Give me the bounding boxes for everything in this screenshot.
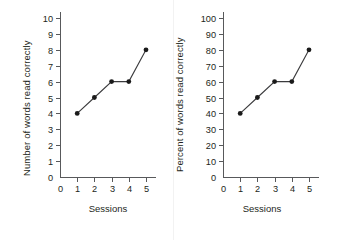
y-tick-label: 2 [48,141,53,151]
x-tick-label: 5 [144,184,149,194]
x-tick-label: 0 [221,184,226,194]
right-chart-x-axis-label: Sessions [212,204,312,214]
data-point-marker [109,79,114,84]
left-chart-y-axis-label: Number of words read correctly [22,16,32,176]
data-point-marker [255,95,260,100]
y-tick-label: 10 [206,157,216,167]
left-chart-x-axis-label: Sessions [58,204,158,214]
panel-seam [173,0,174,240]
x-tick-label: 4 [127,184,132,194]
right-chart-panel: 0102030405060708090100012345 Percent of … [174,0,349,240]
x-tick-label: 4 [290,184,295,194]
data-point-marker [272,79,277,84]
data-point-marker [238,111,243,116]
data-point-marker [92,95,97,100]
y-tick-label: 4 [48,109,53,119]
y-tick-label: 0 [211,173,216,183]
y-tick-label: 3 [48,125,53,135]
right-chart-y-axis-label: Percent of words read correctly [175,22,185,172]
y-tick-label: 20 [206,141,216,151]
data-point-marker [75,111,80,116]
data-point-marker [289,79,294,84]
y-tick-label: 90 [206,30,216,40]
x-tick-label: 3 [273,184,278,194]
y-tick-label: 30 [206,125,216,135]
y-tick-label: 9 [48,30,53,40]
y-tick-label: 7 [48,62,53,72]
y-tick-label: 40 [206,109,216,119]
y-tick-label: 60 [206,78,216,88]
y-tick-label: 6 [48,78,53,88]
y-tick-label: 8 [48,46,53,56]
y-tick-label: 50 [206,94,216,104]
y-tick-label: 0 [48,173,53,183]
x-tick-label: 5 [307,184,312,194]
y-tick-label: 80 [206,46,216,56]
data-point-marker [126,79,131,84]
x-tick-label: 2 [92,184,97,194]
x-tick-label: 2 [255,184,260,194]
left-chart-panel: 012345678910012345 Number of words read … [0,0,174,240]
x-tick-label: 0 [58,184,63,194]
x-tick-label: 1 [238,184,243,194]
y-tick-label: 1 [48,157,53,167]
y-tick-label: 5 [48,94,53,104]
y-tick-label: 10 [43,14,53,24]
data-point-marker [307,47,312,52]
figure-two-line-charts: 012345678910012345 Number of words read … [0,0,349,240]
y-tick-label: 100 [201,14,216,24]
x-tick-label: 1 [75,184,80,194]
data-point-marker [144,47,149,52]
x-tick-label: 3 [110,184,115,194]
y-tick-label: 70 [206,62,216,72]
